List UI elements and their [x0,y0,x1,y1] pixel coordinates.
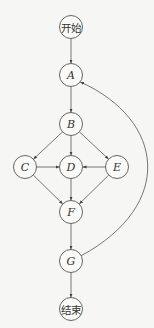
edge-E-to-F [79,175,109,204]
node-e: E [106,156,129,179]
edge-C-to-F [33,175,63,204]
edges-layer [33,39,147,298]
node-label: 结束 [61,304,82,316]
node-label: D [66,161,76,174]
node-label: 开始 [61,22,82,34]
node-label: E [112,161,121,174]
node-label: B [66,118,75,131]
node-a: A [60,64,83,87]
node-end: 结束 [60,298,83,321]
node-start: 开始 [60,16,83,39]
edge-B-to-E [79,132,108,159]
node-b: B [60,113,83,136]
node-g: G [60,250,83,273]
edge-B-to-C [33,132,62,159]
node-label: A [66,69,75,82]
node-label: F [66,206,75,219]
flowchart-diagram: 开始ABCDEFG结束 [0,0,154,328]
node-label: C [21,161,30,174]
node-c: C [14,156,37,179]
node-d: D [60,156,83,179]
node-f: F [60,201,83,224]
node-label: G [67,255,76,268]
